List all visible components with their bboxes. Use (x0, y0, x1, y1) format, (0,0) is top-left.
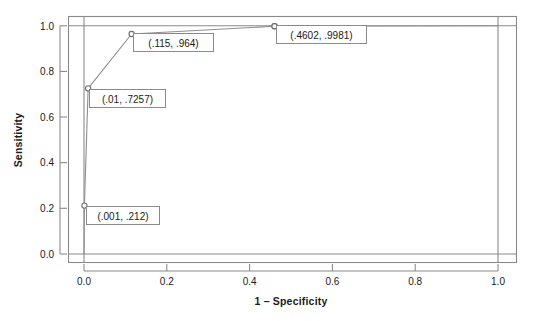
y-axis: 1.0 0.8 0.6 0.4 0.2 0.0 Sensitivity (12, 21, 67, 260)
x-axis: 0.0 0.2 0.4 0.6 0.8 1.0 1 – Specificity (77, 264, 505, 307)
annotation-3-text: (.115, .964) (148, 38, 198, 49)
y-tick-label-0.8: 0.8 (40, 66, 54, 77)
x-tick-label-0.2: 0.2 (160, 276, 174, 287)
y-tick-label-0.4: 0.4 (40, 157, 54, 168)
annotation-2: (.01, .7257) (90, 90, 166, 108)
annotation-4: (.4602, .9981) (277, 26, 367, 44)
annotation-1-text: (.001, .212) (97, 211, 148, 222)
y-tick-label-0.2: 0.2 (40, 203, 54, 214)
x-axis-title: 1 – Specificity (254, 295, 327, 307)
annotation-3: (.115, .964) (134, 34, 214, 52)
roc-plot-svg: 1.0 0.8 0.6 0.4 0.2 0.0 Sensitivity 0.0 … (0, 0, 539, 321)
y-tick-label-0.0: 0.0 (40, 249, 54, 260)
x-tick-label-1.0: 1.0 (491, 276, 505, 287)
y-tick-label-1.0: 1.0 (40, 21, 54, 32)
x-tick-label-0.4: 0.4 (243, 276, 257, 287)
x-tick-label-0.6: 0.6 (325, 276, 339, 287)
plot-frame (69, 17, 517, 263)
annotation-2-text: (.01, .7257) (102, 94, 153, 105)
y-axis-title: Sensitivity (12, 113, 24, 168)
x-tick-label-0.8: 0.8 (408, 276, 422, 287)
x-tick-label-0.0: 0.0 (77, 276, 91, 287)
roc-chart-figure: 1.0 0.8 0.6 0.4 0.2 0.0 Sensitivity 0.0 … (0, 0, 539, 321)
annotation-1: (.001, .212) (87, 207, 160, 225)
y-tick-label-0.6: 0.6 (40, 112, 54, 123)
annotation-4-text: (.4602, .9981) (290, 30, 352, 41)
